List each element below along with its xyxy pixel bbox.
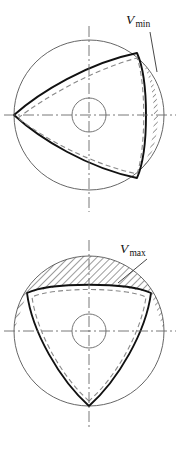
figure-root: Vmin Vmax <box>0 0 186 451</box>
rotor-outline-min-alternate <box>18 58 144 174</box>
technical-diagram-svg: Vmin Vmax <box>0 0 186 451</box>
minimum-volume-panel: Vmin <box>4 12 176 212</box>
rotor-outline-min <box>14 53 146 178</box>
label-vmin: Vmin <box>126 12 150 29</box>
label-vmin-subscript: min <box>135 19 150 29</box>
leader-line-vmin <box>150 32 157 72</box>
label-vmax-subscript: max <box>129 248 146 258</box>
maximum-volume-panel: Vmax <box>4 240 176 428</box>
label-vmax: Vmax <box>120 241 146 258</box>
